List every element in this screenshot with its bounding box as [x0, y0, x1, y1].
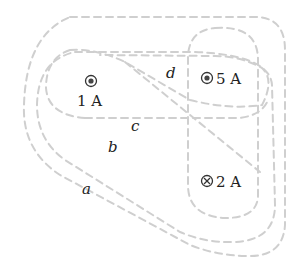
wire-2a-label: 2 A: [216, 173, 241, 191]
loop-d-label: d: [166, 64, 176, 82]
ampere-loop-diagram: 1 A 5 A 2 A a b c d: [0, 0, 297, 261]
loop-b-label: b: [108, 138, 118, 156]
current-out-dot: [88, 78, 93, 83]
wire-1a: 1 A: [77, 76, 102, 111]
wire-5a-label: 5 A: [216, 70, 241, 88]
wire-5a: 5 A: [202, 70, 242, 88]
loop-a-label: a: [82, 180, 91, 198]
wire-2a: 2 A: [202, 173, 242, 191]
wire-1a-label: 1 A: [77, 92, 102, 110]
current-out-dot: [204, 75, 209, 80]
loop-c-label: c: [131, 117, 140, 135]
